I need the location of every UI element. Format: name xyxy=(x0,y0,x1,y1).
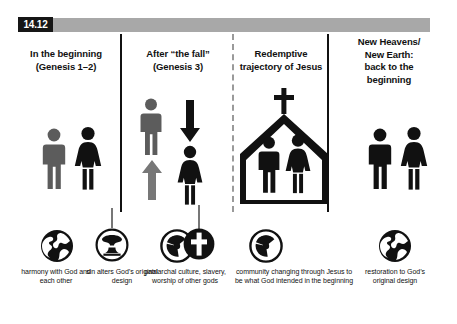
heading-line-2: (Genesis 1–2) xyxy=(14,61,118,74)
heading-line-1: New Heavens/ xyxy=(333,36,445,49)
mushroom-cloud-icon xyxy=(95,228,129,262)
arrow-up-icon-col2 xyxy=(141,160,163,200)
column-divider-dashed-2 xyxy=(232,34,234,212)
column-heading-new-heavens-new-earth: New Heavens/ New Earth: back to the begi… xyxy=(333,36,445,86)
column-divider-1 xyxy=(120,34,122,212)
figure-container: 14.12 In the beginning (Genesis 1–2) Aft… xyxy=(0,0,457,324)
heading-line-2: (Genesis 3) xyxy=(126,61,230,74)
heading-line-4: beginning xyxy=(333,74,445,87)
heading-line-2: New Earth: xyxy=(333,49,445,62)
arrow-down-icon-col2 xyxy=(179,100,201,142)
globe-icon-restoration xyxy=(378,229,412,263)
column-heading-redemptive-trajectory: Redemptive trajectory of Jesus xyxy=(237,48,325,73)
female-figure-col3 xyxy=(283,133,313,194)
figure-number-badge: 14.12 xyxy=(18,17,53,32)
male-figure-col1 xyxy=(40,128,68,190)
radiation-icon-residual xyxy=(249,229,283,263)
caption-community: community changing through Jesus to be w… xyxy=(232,267,356,285)
male-figure-col3 xyxy=(256,136,282,194)
heading-line-1: After “the fall” xyxy=(126,48,230,61)
female-figure-col1 xyxy=(72,126,104,190)
stem-cross xyxy=(198,205,200,229)
heading-line-3: back to the xyxy=(333,61,445,74)
column-heading-after-the-fall: After “the fall” (Genesis 3) xyxy=(126,48,230,73)
heading-line-1: In the beginning xyxy=(14,48,118,61)
globe-icon-harmony xyxy=(40,229,74,263)
male-figure-col4 xyxy=(366,128,394,190)
figure-top-bar xyxy=(18,18,430,32)
female-figure-col4 xyxy=(398,126,430,190)
heading-line-2: trajectory of Jesus xyxy=(237,61,325,74)
heading-line-1: Redemptive xyxy=(237,48,325,61)
stem-mushroom-cloud xyxy=(111,208,113,228)
caption-restoration: restoration to God’s original design xyxy=(353,267,437,285)
cross-icon-redemption xyxy=(183,228,215,260)
female-figure-col2 xyxy=(174,145,206,205)
column-heading-beginning: In the beginning (Genesis 1–2) xyxy=(14,48,118,73)
caption-patriarchal: patriarchal culture, slavery, worship of… xyxy=(140,267,230,285)
male-figure-col2 xyxy=(137,98,165,156)
